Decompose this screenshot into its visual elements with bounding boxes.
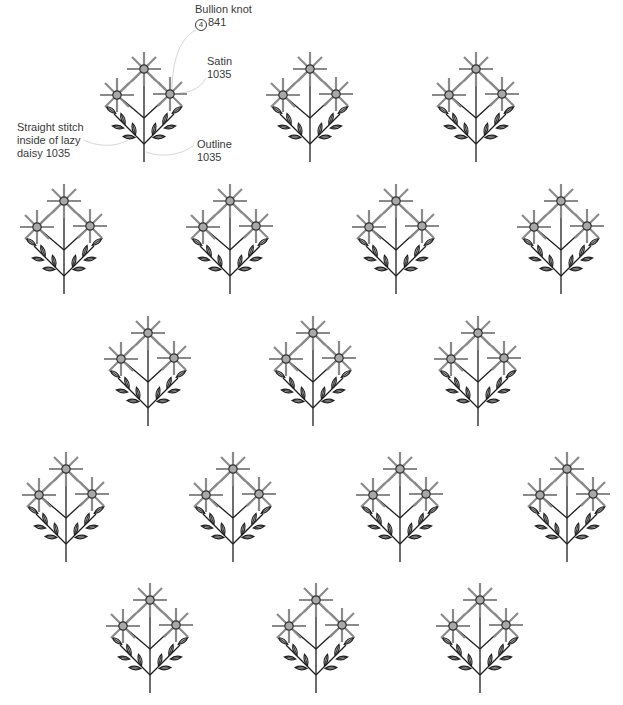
sprig-motif (189, 452, 276, 562)
motif-row-3 (104, 316, 521, 426)
label-bullion-line2: 4841 (195, 16, 252, 31)
pattern-canvas (0, 0, 623, 705)
sprig-motif (266, 52, 353, 162)
motif-row-1 (100, 52, 519, 162)
motif-row-4 (22, 452, 610, 562)
sprig-motif (22, 452, 109, 562)
sprig-motif (436, 583, 523, 693)
motif-row-2 (20, 184, 604, 294)
sprig-motif (104, 316, 191, 426)
sprig-motif (269, 316, 356, 426)
leader-satin (180, 78, 206, 93)
motif-row-5 (106, 583, 523, 693)
leader-outline (146, 145, 194, 155)
leader-lines (84, 30, 206, 155)
sprig-motif (356, 452, 443, 562)
sprig-motif (517, 184, 604, 294)
label-satin: Satin 1035 (207, 55, 232, 81)
label-satin-line2: 1035 (207, 68, 232, 81)
strand-count-badge: 4 (195, 19, 207, 31)
sprig-motif (434, 316, 521, 426)
label-bullion-line1: Bullion knot (195, 3, 252, 16)
sprig-motif (432, 52, 519, 162)
label-bullion-color: 841 (208, 16, 226, 28)
sprig-motif (523, 452, 610, 562)
label-satin-line1: Satin (207, 55, 232, 68)
sprig-motif (186, 184, 273, 294)
label-bullion-knot: Bullion knot 4841 (195, 3, 252, 31)
label-outline: Outline 1035 (197, 138, 232, 164)
leader-bullion (172, 30, 196, 92)
sprig-motif (352, 184, 439, 294)
leader-straight (84, 140, 128, 145)
label-straight-line3: daisy 1035 (17, 147, 84, 160)
label-straight-line1: Straight stitch (17, 121, 84, 134)
label-outline-line1: Outline (197, 138, 232, 151)
sprig-motif (106, 583, 193, 693)
label-outline-line2: 1035 (197, 151, 232, 164)
label-straight-line2: inside of lazy (17, 134, 84, 147)
label-straight-stitch: Straight stitch inside of lazy daisy 103… (17, 121, 84, 160)
sprig-motif (272, 583, 359, 693)
sprig-motif (20, 184, 107, 294)
